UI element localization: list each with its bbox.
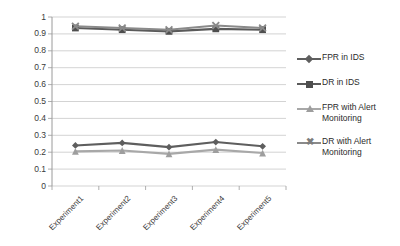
legend-item-fpr-in-ids[interactable]: FPR in IDS [297,52,397,64]
data-point-marker [72,142,79,149]
y-axis-label: 0.9 [8,28,46,38]
legend-label-fpr-alert-monitoring: FPR with Alert Monitoring [322,102,376,123]
legend-item-dr-alert-monitoring[interactable]: ✖ DR with Alert Monitoring [297,136,397,157]
line-chart: 10.90.80.70.60.50.40.30.20.10 Experiment… [0,0,400,246]
y-axis-label: 0 [8,181,46,191]
legend-swatch-diamond-icon [297,53,321,64]
data-point-marker [166,144,173,151]
legend-label-dr-alert-monitoring: DR with Alert Monitoring [322,136,371,157]
legend-label-fpr-in-ids: FPR in IDS [322,52,365,63]
data-point-marker [212,139,219,146]
legend-swatch-triangle-icon [297,103,321,114]
legend-swatch-square-icon [297,78,321,89]
data-point-marker [259,143,266,150]
legend-item-fpr-alert-monitoring[interactable]: FPR with Alert Monitoring [297,102,397,123]
y-axis-label: 0.3 [8,130,46,140]
y-axis-label: 0.7 [8,62,46,72]
legend-item-dr-in-ids[interactable]: DR in IDS [297,77,397,89]
data-point-marker [119,140,126,147]
y-axis-label: 0.8 [8,45,46,55]
y-axis-label: 0.4 [8,113,46,123]
y-axis-label: 0.5 [8,96,46,106]
y-axis-label: 0.6 [8,79,46,89]
legend-label-dr-in-ids: DR in IDS [322,77,360,88]
y-axis-label: 0.1 [8,164,46,174]
chart-legend: FPR in IDS DR in IDS FPR with Alert Moni… [297,52,397,170]
legend-swatch-x-icon: ✖ [297,137,321,148]
y-axis-label: 1 [8,12,46,22]
y-axis-label: 0.2 [8,147,46,157]
